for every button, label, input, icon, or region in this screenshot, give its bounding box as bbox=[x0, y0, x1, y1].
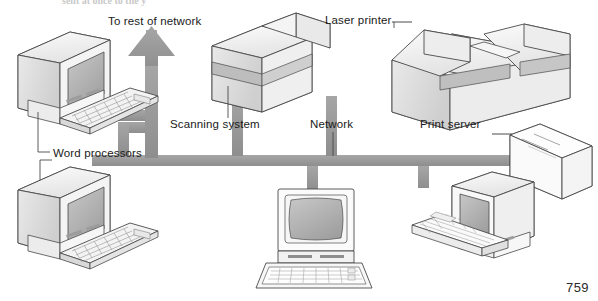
node-workstation-right[interactable] bbox=[412, 172, 534, 258]
network-diagram-figure: sent at once to the y bbox=[0, 0, 598, 301]
label-network: Network bbox=[310, 119, 353, 131]
label-word-processors: Word processors bbox=[53, 148, 142, 160]
page-number: 759 bbox=[566, 280, 589, 295]
label-print-server: Print server bbox=[420, 119, 481, 131]
node-workstation-center[interactable] bbox=[256, 189, 372, 288]
node-word-processor-bottom[interactable] bbox=[18, 160, 158, 269]
label-to-rest-of-network: To rest of network bbox=[108, 16, 201, 28]
cropped-caption-fragment: sent at once to the y bbox=[0, 0, 598, 7]
node-laser-printer[interactable] bbox=[392, 22, 570, 130]
label-scanning-system: Scanning system bbox=[170, 119, 260, 131]
label-laser-printer: Laser printer bbox=[325, 15, 392, 27]
node-scanning-system[interactable] bbox=[212, 13, 330, 118]
